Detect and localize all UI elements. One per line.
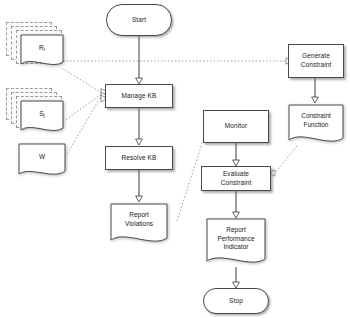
node-start-label: Start [132, 16, 146, 25]
node-rules-stack[interactable]: Ri [6, 22, 76, 74]
edge-monitor-to-evaluate-constraint [233, 143, 240, 166]
generate-constraint-line2: Constraint [301, 61, 332, 70]
node-start[interactable]: Start [106, 4, 172, 36]
node-evaluate-constraint[interactable]: Evaluate Constraint [201, 166, 271, 191]
weights-doc-shape [18, 143, 66, 181]
edge-evaluate-constraint-to-report-performance-indicator [233, 191, 240, 218]
node-generate-constraint[interactable]: Generate Constraint [288, 44, 344, 78]
node-monitor[interactable]: Monitor [203, 110, 269, 143]
node-report-performance-indicator[interactable]: Report Performance Indicator [206, 218, 266, 270]
node-constraint-function[interactable]: Constraint Function [288, 104, 344, 148]
rules-stack-front-shape [6, 22, 76, 74]
node-manage-kb[interactable]: Manage KB [105, 84, 173, 108]
edge-resolve-kb-to-report-violations [136, 170, 143, 202]
generate-constraint-line1: Generate [301, 52, 332, 61]
edge-report-performance-indicator-to-stop [233, 267, 240, 288]
edge-manage-kb-to-resolve-kb [136, 108, 143, 145]
node-monitor-label: Monitor [225, 122, 247, 131]
node-resolve-kb[interactable]: Resolve KB [105, 146, 173, 170]
constraint-function-shape [288, 104, 344, 148]
report-violations-shape [110, 203, 168, 247]
evaluate-constraint-line2: Constraint [221, 179, 252, 188]
node-stop[interactable]: Stop [203, 288, 269, 314]
node-report-violations[interactable]: Report Violations [110, 203, 168, 247]
flowchart-canvas: Start Manage KB Resolve KB Report Violat… [0, 0, 350, 318]
edge-rules-to-generate-constraint [63, 58, 292, 64]
node-resolve-kb-label: Resolve KB [122, 154, 157, 163]
edge-start-to-manage-kb [136, 36, 143, 84]
node-manage-kb-label: Manage KB [122, 92, 157, 101]
node-weights-doc[interactable]: W [18, 143, 66, 181]
edge-constraint-function-to-evaluate-constraint [269, 146, 297, 176]
node-stop-label: Stop [229, 297, 243, 306]
evaluate-constraint-line1: Evaluate [221, 170, 252, 179]
states-stack-front-shape [6, 88, 76, 140]
report-performance-indicator-shape [206, 218, 266, 270]
node-states-stack[interactable]: Sj [6, 88, 76, 140]
edge-generate-constraint-to-constraint-function [312, 78, 319, 103]
